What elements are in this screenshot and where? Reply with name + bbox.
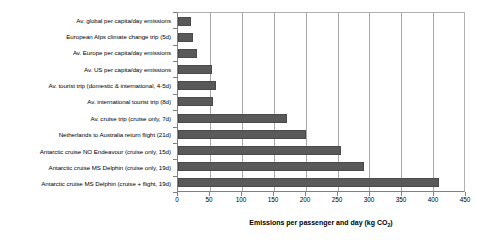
bar xyxy=(178,17,191,26)
bar-row xyxy=(178,178,464,187)
category-tick xyxy=(173,77,177,78)
bar xyxy=(178,162,364,171)
x-axis-title: Emissions per passenger and day (kg CO2) xyxy=(177,219,465,226)
category-tick xyxy=(173,192,177,193)
bar xyxy=(178,178,439,187)
bar-row xyxy=(178,146,464,155)
x-tick-label: 200 xyxy=(300,196,311,203)
category-label: Av. Europe per capita/day emissions xyxy=(0,48,175,57)
bar xyxy=(178,49,197,58)
x-axis: 050100150200250300350400450 xyxy=(177,192,465,200)
category-tick xyxy=(173,45,177,46)
category-tick xyxy=(173,28,177,29)
bar-row xyxy=(178,65,464,74)
x-tick-label: 400 xyxy=(428,196,439,203)
bar xyxy=(178,97,213,106)
bar xyxy=(178,130,306,139)
category-label: European Alps climate change trip (5d) xyxy=(0,32,175,41)
bar-row xyxy=(178,17,464,26)
plot-area xyxy=(177,12,465,192)
category-label: Antarctic cruise NO Endeavour (cruise on… xyxy=(0,147,175,156)
category-tick xyxy=(173,127,177,128)
x-tick-label: 350 xyxy=(396,196,407,203)
bar-row xyxy=(178,33,464,42)
x-tick-label: 50 xyxy=(205,196,212,203)
category-axis-labels: Av. global per capita/day emissions Euro… xyxy=(0,12,175,192)
bar-row xyxy=(178,162,464,171)
bar xyxy=(178,146,341,155)
x-axis-title-suffix: ) xyxy=(390,219,392,226)
category-tick xyxy=(173,143,177,144)
category-tick xyxy=(173,159,177,160)
bar-row xyxy=(178,49,464,58)
bar xyxy=(178,65,212,74)
category-label: Av. US per capita/day emissions xyxy=(0,65,175,74)
category-label: Antarctic cruise MS Delphin (cruise only… xyxy=(0,163,175,172)
bar-chart: Av. global per capita/day emissions Euro… xyxy=(0,0,477,240)
x-tick-label: 0 xyxy=(175,196,179,203)
category-label: Av. global per capita/day emissions xyxy=(0,16,175,25)
bar xyxy=(178,81,216,90)
x-tick-label: 300 xyxy=(364,196,375,203)
bar-row xyxy=(178,81,464,90)
category-tick xyxy=(173,110,177,111)
x-tick-label: 250 xyxy=(332,196,343,203)
category-label: Av. international tourist trip (8d) xyxy=(0,97,175,106)
bar-row xyxy=(178,114,464,123)
category-label: Netherlands to Australia return flight (… xyxy=(0,130,175,139)
category-tick xyxy=(173,94,177,95)
bar xyxy=(178,114,287,123)
x-tick-label: 150 xyxy=(268,196,279,203)
category-tick xyxy=(173,12,177,13)
x-tick-label: 450 xyxy=(460,196,471,203)
bar-rows xyxy=(178,13,464,191)
x-axis-title-text: Emissions per passenger and day (kg CO xyxy=(249,219,387,226)
category-label: Av. cruise trip (cruise only, 7d) xyxy=(0,114,175,123)
bar xyxy=(178,33,193,42)
x-tick-label: 100 xyxy=(236,196,247,203)
category-tick xyxy=(173,61,177,62)
bar-row xyxy=(178,97,464,106)
category-label: Antarctic cruise MS Delphin (cruise + fl… xyxy=(0,179,175,188)
category-tick xyxy=(173,176,177,177)
x-axis-title-subscript: 2 xyxy=(387,222,390,228)
category-label: Av. tourist trip (domestic & internation… xyxy=(0,81,175,90)
bar-row xyxy=(178,130,464,139)
